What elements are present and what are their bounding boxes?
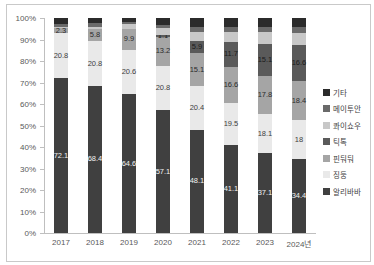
data-label: 34.4 — [292, 192, 307, 200]
plot-area: 72.120.82.368.420.85.864.620.69.957.120.… — [44, 18, 316, 233]
y-axis-tick-label: 10% — [0, 207, 36, 216]
data-label: 9.9 — [124, 35, 134, 43]
data-label: 5.9 — [192, 43, 202, 51]
y-axis-tick-label: 30% — [0, 164, 36, 173]
bar-segment-기타 — [122, 18, 136, 22]
bar-segment-핀둬둬: 9.9 — [122, 29, 136, 50]
bar-segment-핀둬둬: 13.2 — [156, 37, 170, 65]
bar-segment-메이투안 — [88, 23, 102, 26]
legend-marker-icon — [323, 105, 330, 112]
bar-segment-핀둬둬: 2.3 — [54, 28, 68, 33]
bar-segment-징둥: 20.8 — [88, 41, 102, 86]
stacked-bar-2019: 64.620.69.9 — [122, 18, 136, 233]
data-label: 18.1 — [258, 130, 273, 138]
bar-segment-메이투안 — [258, 27, 272, 33]
bar-segment-콰이쇼우 — [156, 28, 170, 34]
bar-segment-콰이쇼우 — [54, 27, 68, 28]
data-label: 5.8 — [90, 31, 100, 39]
x-axis-label: 2024년 — [279, 238, 319, 249]
data-label: 20.8 — [88, 60, 103, 68]
y-axis-tick-label: 60% — [0, 100, 36, 109]
data-label: 15.1 — [190, 66, 205, 74]
data-label: 11.7 — [224, 51, 238, 59]
data-label: 37.1 — [258, 189, 273, 197]
bar-segment-징둥: 20.4 — [190, 86, 204, 130]
bar-segment-틱톡: 5.9 — [190, 41, 204, 54]
bar-segment-알리바바: 41.1 — [224, 145, 238, 233]
data-label: 57.1 — [156, 168, 171, 176]
bar-segment-징둥: 18 — [292, 120, 306, 159]
legend-item-틱톡: 틱톡 — [323, 134, 373, 151]
legend-label: 알리바바 — [333, 186, 361, 197]
bar-segment-징둥: 19.5 — [224, 103, 238, 145]
stacked-bar-2022: 41.119.516.611.7 — [224, 18, 238, 233]
data-label: 48.1 — [190, 178, 205, 186]
bar-segment-기타 — [156, 18, 170, 24]
bar-segment-틱톡: 11.7 — [224, 42, 238, 67]
bar-segment-징둥: 20.8 — [54, 33, 68, 78]
bar-segment-콰이쇼우 — [258, 32, 272, 43]
x-axis-line — [44, 233, 316, 234]
bar-segment-메이투안 — [122, 22, 136, 24]
bar-segment-콰이쇼우 — [122, 24, 136, 28]
bar-segment-알리바바: 34.4 — [292, 159, 306, 233]
data-label: 16.6 — [224, 81, 239, 89]
y-axis-tick-label: 0% — [0, 229, 36, 238]
bar-segment-기타 — [54, 18, 68, 24]
stacked-bar-2018: 68.420.85.8 — [88, 18, 102, 233]
bar-segment-알리바바: 72.1 — [54, 78, 68, 233]
bar-segment-핀둬둬: 15.1 — [190, 53, 204, 85]
bar-segment-알리바바: 64.6 — [122, 94, 136, 233]
y-axis-tick-label: 20% — [0, 186, 36, 195]
data-label: 20.8 — [54, 52, 69, 60]
legend-label: 징둥 — [333, 169, 347, 180]
bar-segment-메이투안 — [190, 27, 204, 32]
data-label: 72.1 — [54, 152, 69, 160]
legend-marker-icon — [323, 171, 330, 178]
bar-segment-알리바바: 37.1 — [258, 153, 272, 233]
bar-segment-징둥: 20.8 — [156, 66, 170, 111]
bar-segment-기타 — [88, 18, 102, 23]
legend-label: 핀둬둬 — [333, 153, 354, 164]
bar-segment-알리바바: 57.1 — [156, 110, 170, 233]
data-label: 18 — [295, 136, 303, 144]
bar-segment-핀둬둬: 18.4 — [292, 81, 306, 121]
data-label: 19.5 — [224, 120, 239, 128]
legend-item-기타: 기타 — [323, 84, 373, 101]
bar-segment-틱톡: 15.1 — [258, 44, 272, 76]
bar-segment-알리바바: 68.4 — [88, 86, 102, 233]
bar-segment-메이투안 — [156, 25, 170, 29]
bar-segment-콰이쇼우 — [88, 27, 102, 29]
data-label: 13.2 — [156, 48, 171, 56]
legend-label: 콰이쇼우 — [333, 120, 361, 131]
legend-label: 기타 — [333, 87, 347, 98]
legend-marker-icon — [323, 122, 330, 129]
y-axis-tick-label: 90% — [0, 35, 36, 44]
legend-item-콰이쇼우: 콰이쇼우 — [323, 117, 373, 134]
legend-item-알리바바: 알리바바 — [323, 183, 373, 200]
bar-segment-핀둬둬: 5.8 — [88, 29, 102, 41]
stacked-bar-2020: 57.120.813.21.1 — [156, 18, 170, 233]
bar-segment-기타 — [190, 18, 204, 27]
legend: 기타메이투안콰이쇼우틱톡핀둬둬징둥알리바바 — [323, 84, 373, 200]
legend-marker-icon — [323, 188, 330, 195]
bar-segment-메이투안 — [224, 27, 238, 32]
y-axis-tick-label: 70% — [0, 78, 36, 87]
stacked-bar-2024년: 34.41818.416.6 — [292, 18, 306, 233]
legend-label: 틱톡 — [333, 136, 347, 147]
data-label: 20.6 — [122, 68, 137, 76]
y-axis-tick-label: 50% — [0, 121, 36, 130]
data-label: 64.6 — [122, 160, 137, 168]
stacked-bar-2017: 72.120.82.3 — [54, 18, 68, 233]
bar-segment-틱톡: 16.6 — [292, 45, 306, 81]
bar-segment-콰이쇼우 — [190, 32, 204, 41]
legend-item-핀둬둬: 핀둬둬 — [323, 150, 373, 167]
data-label: 16.6 — [292, 59, 307, 67]
bar-segment-기타 — [292, 18, 306, 27]
data-label: 41.1 — [224, 185, 239, 193]
bar-segment-기타 — [224, 18, 238, 27]
data-label: 20.4 — [190, 104, 205, 112]
bar-segment-핀둬둬: 16.6 — [224, 67, 238, 103]
bar-segment-콰이쇼우 — [292, 33, 306, 45]
legend-marker-icon — [323, 89, 330, 96]
